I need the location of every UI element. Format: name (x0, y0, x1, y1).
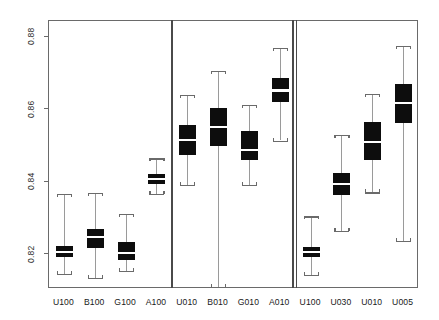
y-tick-label: 0.84 (26, 166, 38, 196)
x-tick-label-0: U100 (48, 297, 79, 307)
median-line (395, 102, 412, 104)
whisker-lower (403, 123, 404, 241)
x-tick-label-9: U030 (326, 297, 357, 307)
whisker-upper (403, 46, 404, 84)
whisker-cap-lower-tick (396, 238, 397, 241)
panel-separator-2-line-1 (292, 20, 293, 288)
y-tick-label: 0.82 (26, 239, 38, 269)
y-tick-label: 0.86 (26, 94, 38, 124)
whisker-cap-lower (396, 241, 411, 242)
panel-separator-1 (171, 20, 172, 288)
whisker-cap-lower-tick (410, 238, 411, 241)
x-tick-label-5: B010 (202, 297, 233, 307)
x-tick-label-10: U010 (356, 297, 387, 307)
x-tick-label-6: G010 (233, 297, 264, 307)
panel-separator-2-line-2 (296, 20, 297, 288)
x-tick-label-8: U100 (295, 297, 326, 307)
x-tick-label-2: G100 (110, 297, 141, 307)
whisker-cap-upper-tick (396, 46, 397, 49)
x-tick-label-11: U005 (387, 297, 418, 307)
x-tick-label-4: U010 (171, 297, 202, 307)
x-tick-label-7: A010 (264, 297, 295, 307)
x-tick-label-1: B100 (79, 297, 110, 307)
whisker-cap-upper-tick (410, 46, 411, 49)
x-tick-label-3: A100 (141, 297, 172, 307)
boxplot-figure: 0.820.840.860.88 U100B100G100A100U010B01… (0, 0, 439, 320)
y-tick-label: 0.88 (26, 21, 38, 51)
plot-frame (48, 20, 418, 288)
whisker-cap-upper (396, 46, 411, 47)
boxplot-box (49, 21, 419, 289)
